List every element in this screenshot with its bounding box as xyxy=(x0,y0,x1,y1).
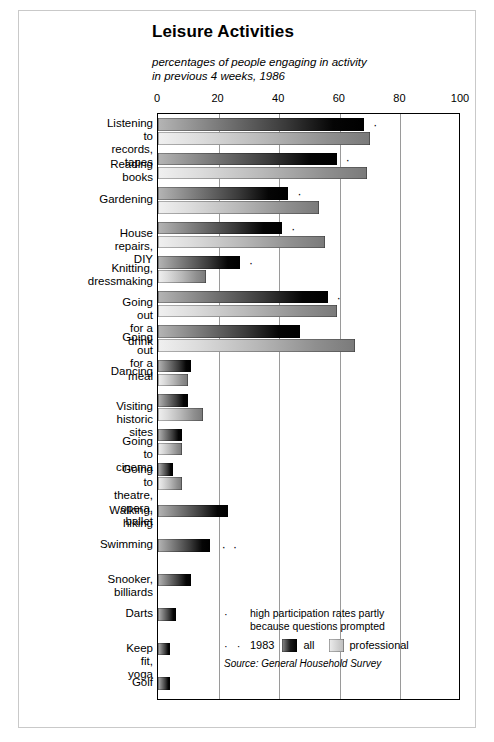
chart-subtitle: percentages of people engaging in activi… xyxy=(152,56,367,83)
category-label: Dancing xyxy=(111,365,153,378)
swatch-all-icon xyxy=(282,639,297,652)
category-label: Snooker, billiards xyxy=(108,573,153,599)
annotation-marker: · · xyxy=(222,541,239,553)
annotation-marker: · xyxy=(249,257,255,269)
chart-title: Leisure Activities xyxy=(152,22,294,42)
x-tick-80: 80 xyxy=(393,92,405,104)
annotation-marker: · xyxy=(337,292,343,304)
x-axis-tick-labels: 020406080100 xyxy=(157,92,460,108)
legend-professional-label: professional xyxy=(350,639,409,652)
legend-source: Source: General Household Survey xyxy=(224,658,448,671)
legend: · high participation rates partly becaus… xyxy=(224,607,448,671)
category-label: Swimming xyxy=(100,538,153,551)
x-tick-60: 60 xyxy=(333,92,345,104)
chart-page: Leisure Activities percentages of people… xyxy=(0,0,494,742)
legend-note-text: high participation rates partly because … xyxy=(250,607,385,632)
single-asterisk-marker: · xyxy=(224,607,250,620)
x-tick-20: 20 xyxy=(211,92,223,104)
category-label: Visiting historic sites xyxy=(116,400,153,439)
category-label: Reading books xyxy=(110,158,153,184)
legend-series-row: · · 1983 all professional xyxy=(224,639,448,652)
x-tick-0: 0 xyxy=(154,92,160,104)
category-label: Walking, hiking xyxy=(109,504,153,530)
legend-all-label: all xyxy=(303,639,314,652)
swatch-professional-icon xyxy=(329,639,344,652)
category-label: Gardening xyxy=(99,193,153,206)
annotation-marker: · xyxy=(297,188,303,200)
category-label: Keep fit, yoga xyxy=(126,642,153,681)
annotation-marker: · xyxy=(373,119,379,131)
x-tick-100: 100 xyxy=(451,92,469,104)
double-asterisk-marker: · · xyxy=(224,639,250,652)
category-label: Knitting, dressmaking xyxy=(88,262,153,288)
category-label: Golf xyxy=(132,676,153,689)
annotation-marker: · xyxy=(346,154,352,166)
category-label: Darts xyxy=(126,607,153,620)
category-label: House repairs, DIY xyxy=(115,227,153,266)
annotation-marker: · xyxy=(291,223,297,235)
x-tick-40: 40 xyxy=(272,92,284,104)
legend-note-row: · high participation rates partly becaus… xyxy=(224,607,448,632)
legend-year-label: 1983 xyxy=(250,639,274,652)
